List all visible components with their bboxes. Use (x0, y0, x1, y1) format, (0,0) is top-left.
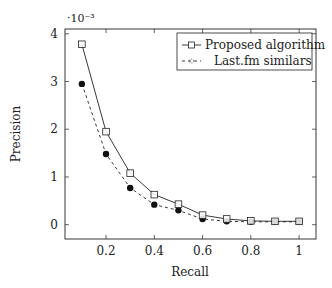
precision-recall-chart: 01234 0.20.40.60.81 ·10⁻³ Recall Precisi… (0, 0, 332, 288)
y-tick-label: 2 (50, 122, 58, 136)
series-line (82, 44, 299, 221)
data-point (175, 201, 182, 208)
x-tick-label: 0.6 (193, 244, 212, 258)
data-point (272, 218, 279, 225)
x-tick-label: 0.4 (145, 244, 164, 258)
x-tick-label: 0.2 (96, 244, 115, 258)
y-axis-label: Precision (9, 106, 23, 163)
y-tick-label: 3 (50, 75, 58, 89)
data-point (127, 185, 133, 191)
data-point (79, 41, 86, 48)
data-point (127, 170, 134, 177)
data-point (248, 218, 255, 225)
data-point (296, 218, 303, 225)
data-point (103, 151, 109, 157)
legend-label-proposed: Proposed algorithm (205, 38, 326, 52)
data-point (223, 216, 230, 223)
y-tick-label: 1 (50, 170, 58, 184)
x-tick-label: 1 (295, 244, 303, 258)
x-axis-label: Recall (171, 265, 209, 279)
data-point (103, 128, 110, 135)
data-point (151, 191, 158, 198)
data-point (79, 81, 85, 87)
legend: Proposed algorithm Last.fm similars (177, 33, 326, 70)
x-tick-label: 0.8 (241, 244, 260, 258)
y-tick-label: 4 (50, 27, 58, 41)
data-point (175, 207, 181, 213)
legend-label-lastfm: Last.fm similars (214, 54, 312, 68)
y-scale-label: ·10⁻³ (67, 12, 95, 25)
y-tick-label: 0 (50, 218, 58, 232)
series-line (82, 84, 299, 222)
open-square-marker-icon (189, 42, 195, 48)
data-point (151, 201, 157, 207)
data-point (199, 212, 206, 219)
